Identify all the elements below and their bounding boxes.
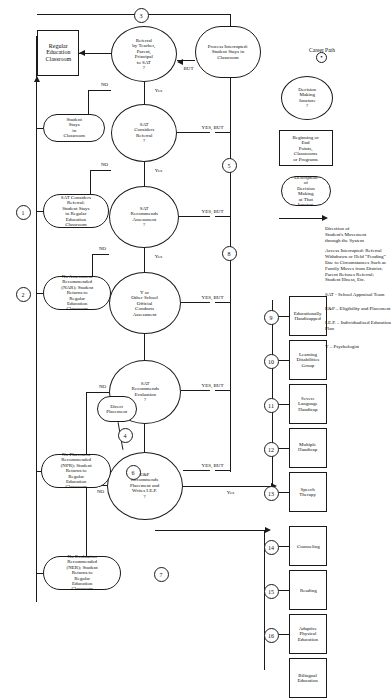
node-no-assessment-recommended[interactable]: No Assessment Recommended (NAR); Student… — [43, 276, 111, 310]
node-sat-considers-referral-decision[interactable]: SAT Considers Referral ? — [111, 104, 177, 162]
line-referral-no-h — [88, 90, 89, 114]
legend-abbrev-y: Y – Psychologist — [313, 344, 331, 378]
line-but-satassess — [179, 216, 231, 217]
line-prog9 — [279, 316, 289, 317]
path-marker-8: 8 — [222, 246, 237, 261]
node-referral-decision[interactable]: Referral by Teacher, Parent, Principal t… — [111, 26, 177, 82]
edge-label-yes-2: Yes — [156, 166, 161, 175]
edge-satconsiders-to-satassess — [144, 162, 145, 186]
path-marker-4: 4 — [118, 428, 133, 443]
line-satconsiders-no — [91, 170, 111, 171]
node-no-evaluation-recommended[interactable]: No Evaluation Recommended (NER); Student… — [43, 556, 121, 590]
edge-referral-to-satconsiders — [144, 82, 145, 104]
program-marker-13: 13 — [264, 486, 279, 501]
line-but-satconsiders — [177, 132, 231, 133]
arrow-spine-into-rec — [35, 76, 41, 82]
program-box-speech-therapy[interactable]: Speech Therapy — [289, 472, 327, 512]
node-eandp-recommends-decision[interactable]: E&P Recommends Placement and Writes I.E.… — [107, 452, 183, 520]
line-eandp-yes-up — [183, 486, 273, 487]
path-marker-7: 7 — [154, 567, 169, 582]
edge-label-yesbut-4: YES, BUT — [210, 374, 215, 398]
edge-yassess-to-satevaluation — [144, 334, 145, 360]
program-box-severe-language-handicap[interactable]: Severe Language Handicap — [289, 384, 327, 424]
node-no-placement-recommended[interactable]: No Placement Recommended (NPR); Student … — [41, 454, 111, 488]
edge-label-yes-3: Yes — [156, 252, 161, 261]
legend-endpoint-box: Beginning or End Points, Classrooms or P… — [279, 130, 333, 166]
program-marker-9: 9 — [264, 310, 279, 325]
path-marker-5: 5 — [222, 158, 237, 173]
program-marker-10: 10 — [264, 354, 279, 369]
line-referral-no — [89, 90, 111, 91]
main-spine-line — [36, 36, 37, 602]
line-prog14 — [279, 546, 289, 547]
edge-label-no-satconsiders: NO — [102, 160, 107, 169]
node-process-interrupted[interactable]: Process Interrupted: Student Stays in Cl… — [195, 26, 261, 78]
edge-label-but-1: BUT — [186, 62, 191, 74]
node-sat-considers-referral-stays[interactable]: SAT Considers Referral; Student Stays in… — [43, 194, 109, 228]
program-marker-15: 15 — [264, 584, 279, 599]
line-lower-rail-down — [155, 530, 265, 531]
path-marker-3: 3 — [134, 8, 149, 23]
edge-satevaluation-to-eandp — [144, 424, 145, 452]
legend-direction-arrow-shaft — [279, 218, 323, 219]
edge-label-no-satassess: NO — [100, 244, 105, 253]
program-box-adaptive-physical-education[interactable]: Adaptive Physical Education — [289, 614, 327, 654]
line-satconsiders-no-h — [90, 170, 91, 194]
path-marker-6: 6 — [126, 465, 141, 480]
edge-label-yes-1: Yes — [156, 86, 161, 95]
program-marker-11: 11 — [264, 398, 279, 413]
line-but-eandp — [183, 470, 231, 471]
program-marker-16: 16 — [264, 628, 279, 643]
path-marker-2: 2 — [16, 287, 31, 302]
edge-label-yesbut-3: YES, BUT — [210, 286, 215, 310]
line-prog15 — [279, 590, 289, 591]
line-satevaluation-no — [87, 392, 109, 393]
program-marker-12: 12 — [264, 442, 279, 457]
edge-label-no-satevaluation: NO — [100, 382, 105, 391]
node-direct-placement[interactable]: Direct Placement — [97, 396, 137, 422]
line-but-yassess — [181, 302, 231, 303]
line-satassess-no — [93, 254, 109, 255]
edge-label-no-eandp: NO — [98, 487, 103, 496]
edge-label-yesbut-2: YES, BUT — [210, 200, 215, 224]
program-box-multiple-handicap[interactable]: Multiple Handicap — [289, 428, 327, 468]
arrow-lower-rail — [265, 527, 271, 533]
line-but-satevaluation — [181, 390, 231, 391]
legend-career-path-symbol: • — [316, 52, 327, 63]
legend-direction-arrow-head — [322, 215, 328, 221]
program-box-reading[interactable]: Reading — [289, 570, 327, 610]
arrow-into-interrupt-down — [177, 59, 183, 65]
edge-label-yesbut-1: YES, BUT — [210, 116, 215, 140]
arrow-into-rec — [79, 50, 85, 56]
upper-program-rail — [272, 300, 273, 486]
node-student-stays-in-classroom[interactable]: Student Stays in Classroom — [43, 114, 105, 142]
node-y-conducts-assessment[interactable]: Y or Other School Official Conducts Asse… — [109, 272, 181, 334]
line-prog11 — [279, 404, 289, 405]
line-prog13 — [279, 492, 289, 493]
program-box-counseling[interactable]: Counseling — [289, 526, 327, 566]
line-prog10 — [279, 360, 289, 361]
line-satassess-no-h — [92, 254, 93, 276]
interrupt-rail — [230, 52, 231, 472]
program-marker-14: 14 — [264, 540, 279, 555]
node-sat-recommends-assessment-decision[interactable]: SAT Recommends Assessment ? — [109, 186, 179, 248]
program-box-bilingual-education[interactable]: Bilingual Education — [289, 658, 327, 698]
legend-description-box: Description of Decision Making at That J… — [281, 176, 331, 206]
edge-label-yes-eandp: Yes — [228, 488, 233, 497]
legend-decision-juncture: Decision Making Juncture ? — [281, 76, 333, 120]
edge-satassess-to-yassess — [144, 248, 145, 272]
node-regular-education-classroom[interactable]: Regular Education Classroom — [37, 30, 79, 76]
edge-label-yesbut-5: YES, BUT — [210, 454, 215, 478]
edge-label-no-referral: NO — [102, 80, 107, 89]
path-marker-1: 1 — [16, 205, 31, 220]
line-prog16 — [279, 634, 289, 635]
line-prog12 — [279, 448, 289, 449]
